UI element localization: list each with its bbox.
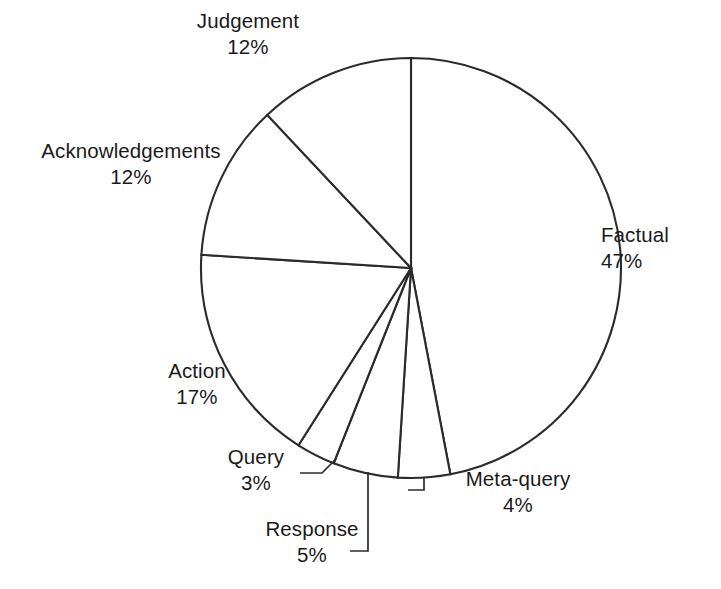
slice-label-response-pct: 5%: [222, 542, 402, 568]
pie-chart: Judgement 12% Acknowledgements 12% Factu…: [0, 0, 721, 589]
slice-label-factual: Factual 47%: [601, 222, 721, 274]
slice-label-query-name: Query: [188, 444, 324, 470]
slice-label-factual-name: Factual: [601, 222, 721, 248]
slice-label-response: Response 5%: [222, 516, 402, 568]
slice-label-action: Action 17%: [112, 358, 282, 410]
slice-label-acknowledgements-pct: 12%: [6, 164, 256, 190]
slice-label-factual-pct: 47%: [601, 248, 721, 274]
slice-label-judgement: Judgement 12%: [118, 8, 378, 60]
slice-label-action-name: Action: [112, 358, 282, 384]
pie-chart-canvas: [0, 0, 721, 589]
pie-slices-group: [201, 58, 621, 478]
slice-label-metaquery-pct: 4%: [428, 492, 608, 518]
slice-label-action-pct: 17%: [112, 384, 282, 410]
slice-label-response-name: Response: [222, 516, 402, 542]
slice-label-metaquery-name: Meta-query: [428, 466, 608, 492]
slice-label-query-pct: 3%: [188, 470, 324, 496]
pie-slice-factual: [411, 58, 621, 474]
slice-label-acknowledgements: Acknowledgements 12%: [6, 138, 256, 190]
slice-label-acknowledgements-name: Acknowledgements: [6, 138, 256, 164]
slice-label-judgement-name: Judgement: [118, 8, 378, 34]
slice-label-metaquery: Meta-query 4%: [428, 466, 608, 518]
slice-label-query: Query 3%: [188, 444, 324, 496]
slice-label-judgement-pct: 12%: [118, 34, 378, 60]
